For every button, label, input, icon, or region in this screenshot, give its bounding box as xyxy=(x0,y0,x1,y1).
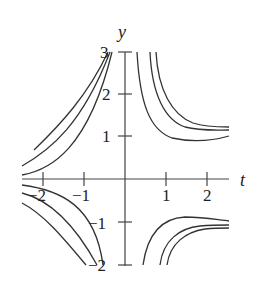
t-tick-label-neg2: −2 xyxy=(28,186,46,205)
y-tick-label-2: 2 xyxy=(102,85,111,104)
y-tick-label-3: 3 xyxy=(100,43,109,62)
y-tick-label-neg1: −1 xyxy=(88,214,106,233)
t-tick-label-2: 2 xyxy=(203,186,212,205)
t-tick-label-1: 1 xyxy=(162,186,171,205)
t-tick-label-neg1: −1 xyxy=(72,186,90,205)
y-axis-label: y xyxy=(116,22,126,42)
curve-upper-right-2 xyxy=(150,52,229,130)
curve-upper-right-3 xyxy=(156,52,229,127)
t-axis-label: t xyxy=(240,170,246,190)
y-tick-label-neg2: −2 xyxy=(88,256,106,275)
y-tick-label-1: 1 xyxy=(102,127,111,146)
curve-lower-right-1 xyxy=(143,217,229,265)
curve-lower-right-3 xyxy=(167,228,229,265)
solution-curves-plot: y t 3 2 1 −1 −2 −2 −1 1 2 xyxy=(0,0,259,295)
